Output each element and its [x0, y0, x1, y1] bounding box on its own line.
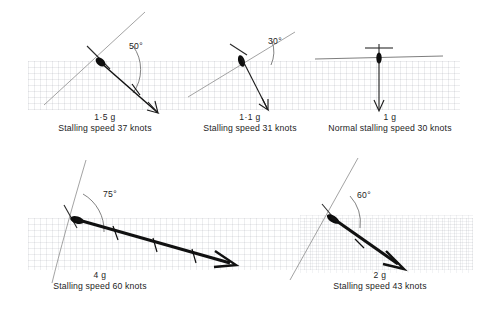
speed-text-50: Stalling speed 37 knots: [25, 123, 185, 134]
panel-75-deg-graphics: [52, 160, 236, 283]
g-value-50: 1·5 g: [25, 112, 185, 123]
caption-panel-60: 2 g Stalling speed 43 knots: [300, 270, 460, 292]
wing-line-30: [230, 44, 247, 55]
angle-arc-60: [350, 196, 360, 228]
force-vector-75: [75, 219, 230, 263]
force-vector-60: [331, 217, 398, 264]
caption-panel-75: 4 g Stalling speed 60 knots: [20, 270, 180, 292]
speed-text-level: Normal stalling speed 30 knots: [307, 123, 473, 134]
angle-label-50: 50°: [129, 41, 143, 51]
caption-panel-50: 1·5 g Stalling speed 37 knots: [25, 112, 185, 134]
caption-panel-level: 1 g Normal stalling speed 30 knots: [307, 112, 473, 134]
bank-reference-line-60: [290, 158, 358, 280]
arrowhead-60: [383, 251, 404, 269]
bank-reference-line-50: [44, 12, 145, 105]
g-value-30: 1·1 g: [175, 112, 325, 123]
panel-50-deg-graphics: [44, 12, 158, 113]
g-value-level: 1 g: [307, 112, 473, 123]
g-value-75: 4 g: [20, 270, 180, 281]
caption-panel-30: 1·1 g Stalling speed 31 knots: [175, 112, 325, 134]
angle-label-30: 30°: [268, 36, 282, 46]
speed-text-75: Stalling speed 60 knots: [20, 281, 180, 292]
angle-label-75: 75°: [103, 189, 117, 199]
diagram-canvas: [0, 0, 477, 315]
vector-tick-75-1: [113, 226, 118, 240]
arrowhead-30: [259, 98, 268, 110]
aviation-load-factor-diagram: 50° 30° 75° 60° 1·5 g Stalling speed 37 …: [0, 0, 477, 315]
force-vector-50: [100, 62, 157, 112]
angle-label-60: 60°: [357, 190, 371, 200]
vector-tick-75-3: [192, 249, 196, 263]
panel-level-graphics: [315, 44, 443, 111]
g-value-60: 2 g: [300, 270, 460, 281]
speed-text-60: Stalling speed 43 knots: [300, 281, 460, 292]
speed-text-30: Stalling speed 31 knots: [175, 123, 325, 134]
panel-60-deg-graphics: [290, 158, 404, 280]
